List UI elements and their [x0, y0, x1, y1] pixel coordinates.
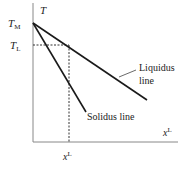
t-melt-label: TM — [8, 17, 21, 31]
solidus-line — [33, 23, 86, 112]
phase-diagram: T TM TL Liquidus line Solidus line xL xL — [0, 0, 187, 170]
liquidus-leader — [119, 70, 136, 77]
x-axis-label-right: xL — [162, 126, 172, 138]
liquidus-label-1: Liquidus — [139, 62, 175, 73]
t-liquidus-label: TL — [10, 39, 20, 53]
y-axis-label: T — [40, 4, 47, 16]
solidus-label: Solidus line — [87, 111, 135, 122]
liquidus-line — [33, 23, 147, 100]
liquidus-label-2: line — [139, 75, 155, 86]
x-liquidus-label: xL — [62, 150, 72, 162]
